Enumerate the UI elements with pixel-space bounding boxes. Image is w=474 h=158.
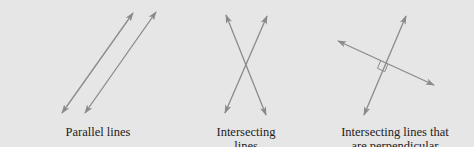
caption-intersecting-lines: Intersecting lines [196,125,296,147]
caption-line: Intersecting [196,125,296,139]
caption-line: lines [196,139,296,147]
parallel-line-2 [85,12,156,113]
page-margin [0,147,474,158]
parallel-lines-figure [62,12,156,113]
caption-line: are perpendicular [325,139,465,147]
intersecting-lines-figure [225,15,267,115]
perpendicular-line-shallow [338,41,434,85]
geometry-lines-figure-panel: Parallel lines Intersecting lines Inters… [0,0,474,147]
intersecting-line-2 [225,16,267,113]
caption-line: Intersecting lines that [325,125,465,139]
caption-parallel-lines: Parallel lines [38,125,158,139]
caption-line: Parallel lines [38,125,158,139]
parallel-line-1 [62,13,133,113]
caption-perpendicular-lines: Intersecting lines that are perpendicula… [325,125,465,147]
perpendicular-line-steep [364,16,406,115]
perpendicular-lines-figure [338,16,434,115]
